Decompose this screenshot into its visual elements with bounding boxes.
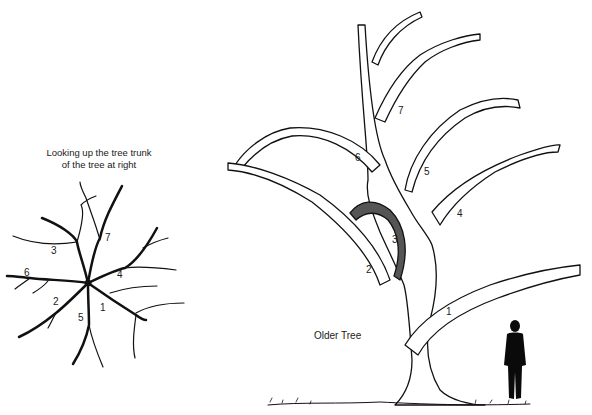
right-branch-label-2: 2 [366,265,372,275]
right-branch-label-3: 3 [392,235,398,245]
left-branch-label-4: 4 [117,270,123,280]
caption-line-2: of the tree at right [24,159,174,171]
caption-line-1: Looking up the tree trunk [24,147,174,159]
left-branch-label-7: 7 [105,233,111,243]
older-tree-title: Older Tree [314,330,361,341]
left-branch-label-1: 1 [100,303,106,313]
right-branch-label-7: 7 [398,106,404,116]
tree-illustration [0,0,592,415]
right-branch-label-5: 5 [424,167,430,177]
left-branch-label-3: 3 [51,246,57,256]
right-branch-label-1: 1 [446,307,452,317]
right-branch-label-6: 6 [355,153,361,163]
person-silhouette-icon [504,320,526,399]
right-branch-label-4: 4 [457,209,463,219]
older-tree-drawing [228,12,580,405]
top-down-caption: Looking up the tree trunk of the tree at… [24,147,174,171]
left-branch-label-2: 2 [53,297,59,307]
top-down-branch-diagram [7,182,184,367]
left-branch-label-5: 5 [78,313,84,323]
left-branch-label-6: 6 [24,268,30,278]
